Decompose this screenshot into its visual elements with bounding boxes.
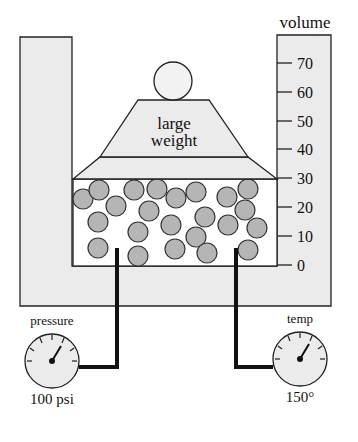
gas-molecule bbox=[161, 215, 181, 235]
temp-label: temp bbox=[287, 311, 313, 326]
volume-tick-label: 20 bbox=[297, 199, 313, 216]
gas-molecule bbox=[186, 182, 206, 202]
gas-molecule bbox=[238, 179, 258, 199]
gas-molecule bbox=[247, 218, 267, 238]
volume-tick-label: 70 bbox=[297, 55, 313, 72]
gas-molecule bbox=[235, 200, 255, 220]
gas-molecule bbox=[147, 179, 167, 199]
piston-plate bbox=[73, 157, 277, 179]
volume-tick-label: 0 bbox=[297, 257, 305, 274]
gas-molecule bbox=[238, 240, 258, 260]
gas-molecule bbox=[88, 212, 108, 232]
gas-molecule bbox=[165, 239, 185, 259]
gas-molecule bbox=[124, 180, 144, 200]
temp-reading: 150° bbox=[286, 389, 315, 405]
pressure-gauge bbox=[25, 334, 79, 388]
gas-molecule bbox=[217, 187, 237, 207]
gas-molecule bbox=[128, 222, 148, 242]
gas-molecule bbox=[88, 238, 108, 258]
volume-tick-label: 30 bbox=[297, 170, 313, 187]
gas-molecule bbox=[89, 180, 109, 200]
gas-molecule bbox=[195, 207, 215, 227]
gas-molecule bbox=[139, 201, 159, 221]
pressure-label: pressure bbox=[30, 313, 74, 328]
gas-molecule bbox=[218, 215, 238, 235]
gas-molecule bbox=[197, 243, 217, 263]
volume-tick-label: 40 bbox=[297, 141, 313, 158]
temp-gauge bbox=[273, 332, 327, 386]
volume-tick-label: 50 bbox=[297, 113, 313, 130]
pressure-reading: 100 psi bbox=[30, 391, 74, 407]
weight-label-line2: weight bbox=[151, 131, 198, 150]
volume-label: volume bbox=[280, 13, 331, 32]
ball bbox=[154, 62, 192, 100]
volume-tick-label: 60 bbox=[297, 84, 313, 101]
piston-cylinder-diagram: large weight volume 706050403020100 pres… bbox=[0, 0, 358, 442]
gas-molecule bbox=[128, 246, 148, 266]
gas-molecule bbox=[106, 196, 126, 216]
volume-tick-label: 10 bbox=[297, 228, 313, 245]
gas-molecule bbox=[166, 188, 186, 208]
